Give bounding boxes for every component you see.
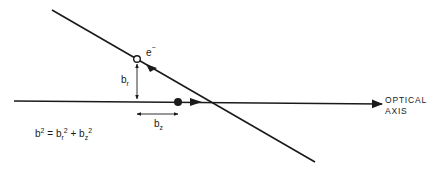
b-r-sub: r [127, 80, 129, 87]
electron-label-text: e [146, 47, 152, 58]
electron-label: e− [146, 46, 156, 58]
diagram-canvas [0, 0, 444, 169]
formula-plus: + [68, 128, 79, 139]
formula-bz-exp: 2 [88, 127, 92, 134]
b-r-label: br [121, 75, 129, 87]
electron-charge-sup: − [152, 44, 156, 51]
optical-axis-label: OPTICAL AXIS [385, 95, 427, 117]
b-z-label: bz [154, 119, 163, 131]
trajectory-direction-arrow-icon [146, 64, 157, 72]
optical-axis-label-line1: OPTICAL [385, 95, 427, 106]
axis-direction-arrow-icon [190, 98, 202, 106]
formula-bz-sub: z [85, 134, 89, 141]
formula-br-sub: r [61, 134, 63, 141]
b-z-sub: z [160, 124, 164, 131]
axis-point-filled-dot-icon [174, 98, 182, 106]
formula-equals: = [44, 128, 55, 139]
impact-parameter-formula: b2 = br2 + bz2 [35, 127, 92, 141]
electron-open-circle-icon [134, 56, 141, 63]
optical-axis-label-line2: AXIS [385, 106, 427, 117]
